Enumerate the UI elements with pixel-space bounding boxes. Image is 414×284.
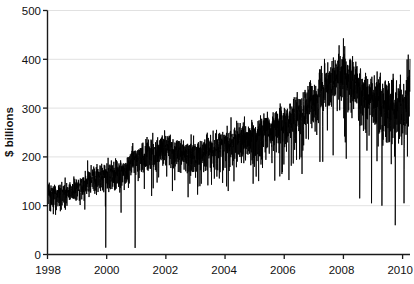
x-tick-label-2008: 2008: [329, 264, 355, 276]
x-tick-label-2006: 2006: [270, 264, 296, 276]
y-tick-label-400: 400: [22, 54, 41, 66]
x-tick-label-2004: 2004: [211, 264, 237, 276]
x-tick-label-2002: 2002: [153, 264, 179, 276]
y-tick-label-0: 0: [35, 249, 41, 261]
x-tick-label-1998: 1998: [35, 264, 61, 276]
y-tick-label-200: 200: [22, 151, 41, 163]
chart-container: 500 400 300 200 100 0 1998 2000 2002 200…: [0, 0, 414, 284]
y-tick-label-300: 300: [22, 103, 41, 115]
x-tick-label-2000: 2000: [94, 264, 120, 276]
y-tick-label-500: 500: [22, 5, 41, 17]
time-series-chart: 500 400 300 200 100 0 1998 2000 2002 200…: [0, 0, 414, 284]
x-tick-label-2010: 2010: [387, 264, 413, 276]
y-axis-title: $ billions: [3, 107, 15, 157]
y-tick-label-100: 100: [22, 200, 41, 212]
